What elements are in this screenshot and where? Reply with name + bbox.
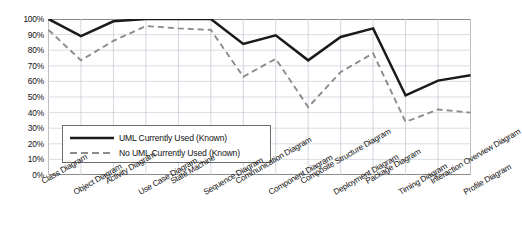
- legend-label-uml-used: UML Currently Used (Known): [119, 133, 227, 143]
- y-tick-label: 90%: [28, 30, 44, 40]
- y-tick-label: 100%: [23, 14, 44, 24]
- legend-label-no-uml-used: No UML Currently Used (Known): [119, 148, 240, 158]
- y-tick-label: 70%: [28, 61, 44, 71]
- y-tick-label: 20%: [28, 139, 44, 149]
- solid-line-swatch-icon: [69, 133, 115, 143]
- legend-item-uml-used: UML Currently Used (Known): [69, 130, 264, 145]
- y-tick-label: 60%: [28, 76, 44, 86]
- legend-item-no-uml-used: No UML Currently Used (Known): [69, 145, 264, 160]
- series-line-0: [49, 19, 471, 95]
- y-tick-label: 10%: [28, 154, 44, 164]
- y-tick-label: 40%: [28, 108, 44, 118]
- y-tick-label: 80%: [28, 45, 44, 55]
- y-tick-label: 30%: [28, 123, 44, 133]
- y-tick-label: 50%: [28, 92, 44, 102]
- chart-legend: UML Currently Used (Known) No UML Curren…: [62, 125, 271, 163]
- x-axis-labels: Class DiagramObject DiagramActivity Diag…: [0, 176, 475, 237]
